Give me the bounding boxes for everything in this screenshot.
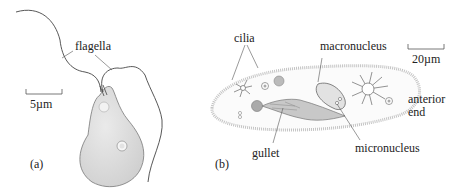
scale-bar-a-label: 5µm [30,98,52,110]
anterior-end-label-line1: anterior [408,93,445,105]
macronucleus-label: macronucleus [320,40,387,52]
scale-bar-b-label: 20µm [412,53,440,65]
panel-a-label: (a) [30,158,43,170]
micronucleus-label: micronucleus [355,142,420,154]
diagram-canvas [0,0,465,193]
gullet-label: gullet [252,147,279,159]
panel-b-label: (b) [215,158,229,170]
flagella-label: flagella [75,40,111,52]
anterior-end-label-line2: end [408,106,425,118]
cilia-label: cilia [234,32,255,44]
